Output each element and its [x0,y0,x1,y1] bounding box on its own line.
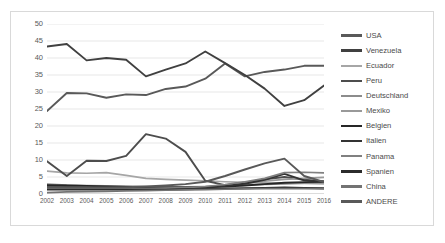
legend-item-mexiko[interactable]: Mexiko [341,103,445,118]
x-tick-label: 2008 [159,198,173,204]
x-axis: 2002200320042005200620072008200920102011… [47,196,324,210]
legend-item-deutschland[interactable]: Deutschland [341,88,445,103]
legend-item-italien[interactable]: Italien [341,134,445,149]
legend-swatch-icon [341,95,362,97]
legend-item-venezuela[interactable]: Venezuela [341,43,445,58]
legend-label: Italien [366,137,386,145]
legend-label: Panama [366,153,394,161]
x-tick-label: 2014 [277,198,291,204]
legend-swatch-icon [341,125,362,127]
legend-swatch-icon [341,200,362,202]
legend-label: China [366,183,386,191]
y-tick-label: 40 [35,54,43,62]
y-tick-label: 25 [35,105,43,113]
legend-item-ecuador[interactable]: Ecuador [341,58,445,73]
legend-label: Venezuela [366,47,401,55]
y-tick-label: 45 [35,37,43,45]
y-tick-label: 15 [35,139,43,147]
legend-item-andere[interactable]: ANDERE [341,194,445,209]
y-tick-label: 30 [35,88,43,96]
x-tick-label: 2016 [317,198,331,204]
y-tick-label: 50 [35,20,43,28]
y-tick-label: 20 [35,122,43,130]
x-tick-label: 2005 [99,198,113,204]
legend-label: Belgien [366,122,391,130]
legend-item-usa[interactable]: USA [341,28,445,43]
legend-label: Peru [366,77,382,85]
legend-swatch-icon [341,170,362,172]
x-tick-label: 2002 [40,198,54,204]
legend-item-panama[interactable]: Panama [341,149,445,164]
legend-item-peru[interactable]: Peru [341,73,445,88]
legend-swatch-icon [341,110,362,112]
plot-area: 05101520253035404550 [47,24,324,194]
x-tick-label: 2003 [60,198,74,204]
x-tick-label: 2007 [139,198,153,204]
legend-label: Mexiko [366,107,390,115]
legend-swatch-icon [341,65,362,67]
legend-swatch-icon [341,49,362,51]
legend-swatch-icon [341,155,362,157]
legend-swatch-icon [341,185,362,187]
legend-item-china[interactable]: China [341,179,445,194]
legend-label: ANDERE [366,198,398,206]
x-tick-label: 2009 [178,198,192,204]
x-tick-label: 2013 [258,198,272,204]
chart-legend: USAVenezuelaEcuadorPeruDeutschlandMexiko… [341,28,445,209]
legend-label: Ecuador [366,62,394,70]
legend-swatch-icon [341,80,362,82]
y-tick-label: 35 [35,71,43,79]
chart-container: 05101520253035404550 2002200320042005200… [10,11,434,226]
legend-item-belgien[interactable]: Belgien [341,119,445,134]
legend-swatch-icon [341,140,362,142]
x-tick-label: 2012 [238,198,252,204]
y-tick-label: 5 [39,173,43,181]
legend-swatch-icon [341,34,362,36]
plot-svg [47,24,324,194]
x-tick-label: 2006 [119,198,133,204]
legend-item-spanien[interactable]: Spanien [341,164,445,179]
x-tick-label: 2015 [297,198,311,204]
legend-label: USA [366,32,382,40]
x-tick-label: 2010 [198,198,212,204]
x-tick-label: 2011 [218,198,232,204]
y-tick-label: 10 [35,156,43,164]
x-tick-label: 2004 [79,198,93,204]
legend-label: Deutschland [366,92,408,100]
legend-label: Spanien [366,168,394,176]
